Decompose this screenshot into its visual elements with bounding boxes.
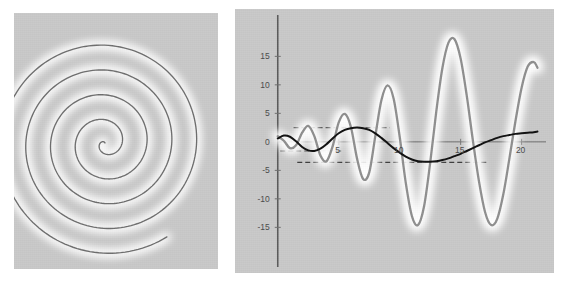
y-tick-label: 15 — [260, 51, 270, 61]
wave-plot-panel: 151050-5-10-15 5101520 — [235, 9, 554, 273]
spiral-plot-panel — [14, 13, 218, 269]
x-tick-label: 10 — [394, 145, 404, 155]
y-tick-label: -10 — [257, 194, 270, 204]
x-tick-label: 15 — [455, 145, 465, 155]
y-tick-label: 5 — [265, 108, 270, 118]
y-tick-label: -15 — [257, 222, 270, 232]
figure-container: 151050-5-10-15 5101520 — [0, 0, 568, 282]
y-tick-label: 0 — [265, 137, 270, 147]
spiral-glow-path — [14, 45, 197, 253]
x-tick-label: 5 — [335, 145, 340, 155]
spiral-plot-canvas — [14, 13, 218, 269]
x-tick-label: 20 — [516, 145, 526, 155]
wave-plot-canvas: 151050-5-10-15 5101520 — [235, 9, 554, 273]
y-tick-label: -5 — [262, 165, 270, 175]
y-tick-labels: 151050-5-10-15 — [257, 51, 270, 232]
y-tick-label: 10 — [260, 80, 270, 90]
spiral-glow-layer — [14, 45, 197, 253]
